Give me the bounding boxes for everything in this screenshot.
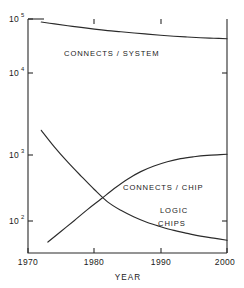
y-tick-label-1e3-exp: 3 xyxy=(21,148,24,154)
y-tick-label-1e3: 10 3 xyxy=(9,148,24,160)
x-tick-label-1970: 1970 xyxy=(18,257,38,267)
x-tick-label-1980: 1980 xyxy=(84,257,104,267)
y-tick-label-1e4-base: 10 xyxy=(9,68,19,78)
series-line-connects-chip xyxy=(48,154,227,242)
y-tick-label-1e5-exp: 5 xyxy=(21,12,24,18)
y-tick-label-1e5: 10 5 xyxy=(9,12,24,24)
y-tick-label-1e5-base: 10 xyxy=(9,14,19,24)
series-label-connects-system: CONNECTS / SYSTEM xyxy=(64,49,159,58)
series-line-connects-system xyxy=(41,22,227,39)
series-label-chips: CHIPS xyxy=(158,219,186,228)
x-tick-label-1990: 1990 xyxy=(151,257,171,267)
y-tick-label-1e2-base: 10 xyxy=(9,216,19,226)
chart-figure: 10 5 10 4 10 3 10 2 1970 1980 1990 2000 … xyxy=(0,0,244,288)
y-tick-label-1e4: 10 4 xyxy=(9,66,25,78)
y-tick-label-1e2-exp: 2 xyxy=(21,214,24,220)
y-tick-label-1e4-exp: 4 xyxy=(21,66,25,72)
y-tick-label-1e2: 10 2 xyxy=(9,214,24,226)
y-tick-label-1e3-base: 10 xyxy=(9,150,19,160)
x-tick-label-2000: 2000 xyxy=(215,257,235,267)
series-label-connects-chip: CONNECTS / CHIP xyxy=(123,183,204,192)
chart-svg: 10 5 10 4 10 3 10 2 1970 1980 1990 2000 … xyxy=(0,0,244,288)
x-axis-title: YEAR xyxy=(115,273,142,282)
series-label-logic: LOGIC xyxy=(160,206,188,215)
